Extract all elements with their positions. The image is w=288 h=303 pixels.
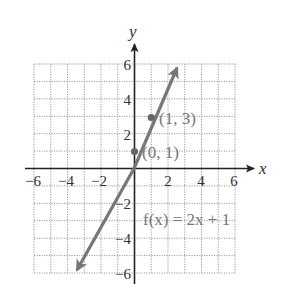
- svg-text:−6: −6: [115, 266, 131, 282]
- svg-text:2: 2: [124, 127, 132, 143]
- svg-text:−4: −4: [115, 231, 131, 247]
- svg-text:4: 4: [197, 173, 205, 189]
- svg-text:6: 6: [230, 173, 238, 189]
- svg-text:4: 4: [124, 92, 132, 108]
- point-label-1-3: (1, 3): [159, 109, 196, 128]
- point-1-3: [148, 114, 155, 121]
- y-axis-label: y: [127, 22, 137, 41]
- function-label: f(x) = 2x + 1: [143, 210, 230, 229]
- point-label-0-1: (0, 1): [142, 143, 179, 162]
- svg-text:−6: −6: [25, 173, 41, 189]
- svg-text:2: 2: [164, 173, 172, 189]
- point-0-1: [131, 148, 138, 155]
- svg-text:−2: −2: [91, 173, 107, 189]
- x-axis-label: x: [258, 159, 267, 178]
- function-graph: x y −6 −4 −2 2 4 6 6 4 2 −2 −4 −6 (1, 3)…: [0, 0, 288, 303]
- svg-text:6: 6: [124, 57, 132, 73]
- svg-text:−4: −4: [58, 173, 74, 189]
